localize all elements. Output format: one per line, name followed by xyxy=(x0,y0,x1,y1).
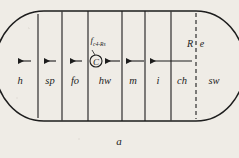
compartment-label-fo: fo xyxy=(71,76,79,87)
compartment-label-ch: ch xyxy=(177,76,187,87)
compartment-label-i: i xyxy=(157,76,160,87)
flux-label-tail: -Rs xyxy=(98,41,105,47)
figure-caption: a xyxy=(116,136,122,147)
reservoir-label-r: R xyxy=(187,39,193,49)
compartment-label-sp: sp xyxy=(45,76,54,87)
node-symbol-label: C xyxy=(93,57,99,66)
compartment-label-sw: sw xyxy=(208,76,219,87)
figure-container: C fc4-Rs R e h sp fo hw m i ch sw a xyxy=(0,0,239,158)
flux-label: fc4-Rs xyxy=(90,36,105,47)
divider-lines xyxy=(38,11,171,121)
reservoir-label-e: e xyxy=(200,39,204,49)
leader-line xyxy=(92,50,95,55)
compartment-label-h: h xyxy=(17,76,22,87)
compartment-label-hw: hw xyxy=(99,76,111,87)
flux-label-leader xyxy=(92,50,95,55)
stadium-outline xyxy=(0,11,239,121)
outline-path xyxy=(0,11,239,121)
compartment-label-m: m xyxy=(129,76,137,87)
